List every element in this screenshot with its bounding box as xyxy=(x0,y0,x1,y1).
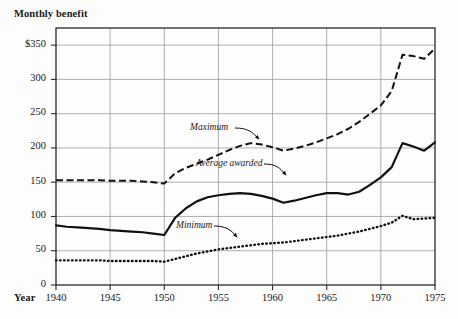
x-tick-label: 1960 xyxy=(253,292,293,303)
annotation-maximum: Maximum xyxy=(190,122,228,132)
x-tick-label: 1945 xyxy=(90,292,130,303)
x-tick-label: 1955 xyxy=(198,292,238,303)
y-tick-label: $350 xyxy=(2,38,46,49)
chart-figure: Monthly benefit Year $350300250200150100… xyxy=(0,0,458,319)
annotation-average-awarded: Average awarded xyxy=(196,158,262,168)
y-tick-label: 300 xyxy=(2,72,46,83)
y-tick-label: 0 xyxy=(2,278,46,289)
y-tick-label: 200 xyxy=(2,140,46,151)
y-tick-label: 50 xyxy=(2,243,46,254)
annotation-minimum: Minimum xyxy=(176,220,212,230)
y-tick-label: 100 xyxy=(2,209,46,220)
x-tick-label: 1950 xyxy=(144,292,184,303)
data-series-group xyxy=(56,49,435,262)
x-tick-label: 1940 xyxy=(36,292,76,303)
y-tick-label: 150 xyxy=(2,175,46,186)
x-tick-label: 1975 xyxy=(415,292,455,303)
annotation-arrows-group xyxy=(214,128,287,238)
x-tick-label: 1965 xyxy=(307,292,347,303)
x-tick-label: 1970 xyxy=(361,292,401,303)
y-tick-label: 250 xyxy=(2,106,46,117)
